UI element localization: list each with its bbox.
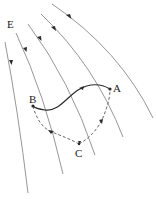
field-line-5 — [52, 4, 153, 118]
label-a: A — [113, 82, 121, 94]
arrow-icon — [9, 60, 13, 65]
field-line-1 — [5, 42, 28, 193]
field-line-4 — [41, 14, 123, 137]
field-lines — [5, 4, 153, 193]
point-a — [108, 87, 111, 90]
label-c: C — [75, 147, 82, 159]
field-arrows — [9, 14, 72, 65]
label-e: E — [7, 18, 14, 30]
field-diagram: E A B C — [0, 0, 156, 199]
path-b-to-c — [33, 106, 79, 144]
arrow-icon — [99, 119, 103, 124]
path-c-to-a — [79, 89, 110, 144]
label-b: B — [29, 93, 36, 105]
arrow-icon — [51, 26, 56, 31]
field-line-3 — [28, 24, 95, 155]
point-c — [78, 143, 80, 145]
